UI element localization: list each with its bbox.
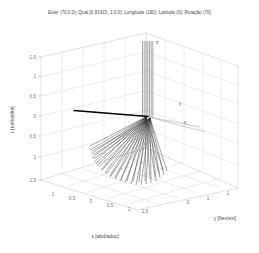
x-tick-1: 0.5 xyxy=(69,196,76,201)
grid-left-wall xyxy=(41,52,146,157)
y-tick-2: 1 xyxy=(227,191,230,196)
plot-canvas: Euler (70,0,0); Quat [0.81915, 1,0,0]; L… xyxy=(0,0,259,253)
grid-right-verticals xyxy=(165,40,221,178)
origin-axes xyxy=(145,116,205,132)
x-tick-2: 0 xyxy=(90,199,93,204)
z-tick-3: 0 xyxy=(33,114,36,119)
z-tick-0: 1.5 xyxy=(30,55,37,60)
z-tick-6: 1.5 xyxy=(30,178,37,183)
x-axis: 1 0.5 0 0.5 1 1.5 xyxy=(52,192,149,214)
z-tick-5: 1 xyxy=(33,155,36,160)
x-axis-label: x [abd/aduc] xyxy=(91,233,119,239)
z-axis-bundle xyxy=(143,41,153,117)
x-tick-0: 1 xyxy=(52,192,55,197)
z-tick-4: 0.5 xyxy=(30,134,37,139)
z-axis-label: z [rot/ext/int] xyxy=(9,106,15,134)
plot-title: Euler (70,0,0); Quat [0.81915, 1,0,0]; L… xyxy=(48,10,212,15)
z-axis: 1.5 1 0.5 0 0.5 1 1.5 xyxy=(30,55,41,183)
z-tick-2: 0.5 xyxy=(30,94,37,99)
y-axis: 0 1 1 xyxy=(187,191,230,205)
x-tick-4: 1 xyxy=(128,207,131,212)
inner-z-label: z xyxy=(156,40,159,45)
x-tick-5: 1.5 xyxy=(142,209,149,214)
y-tick-1: 1 xyxy=(207,196,210,201)
figure-window: Euler (70,0,0); Quat [0.81915, 1,0,0]; L… xyxy=(0,0,259,253)
z-tick-1: 1 xyxy=(33,74,36,79)
y-tick-0: 0 xyxy=(187,200,190,205)
x-tick-3: 0.5 xyxy=(107,203,114,208)
y-axis-label: y [flex/ext] xyxy=(214,215,237,221)
grid-left-verticals xyxy=(62,38,125,174)
reference-arm xyxy=(74,111,148,117)
